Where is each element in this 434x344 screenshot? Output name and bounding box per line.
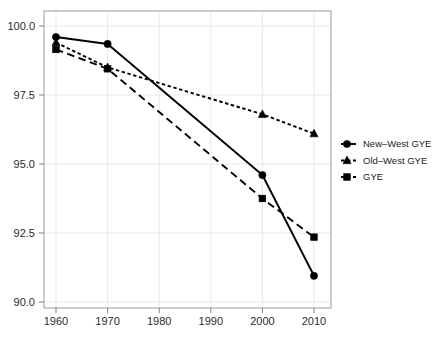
data-point-square <box>344 174 351 181</box>
legend-label-3: GYE <box>363 171 383 182</box>
y-tick-label-100: 100.0 <box>7 20 35 32</box>
data-point-circle <box>310 272 317 279</box>
y-tick-label-92-5: 92.5 <box>14 227 35 239</box>
data-point-square <box>259 195 266 202</box>
chart-container: 90.0 92.5 95.0 97.5 100.0 1960 1970 1980… <box>0 0 434 344</box>
legend-label-2: Old–West GYE <box>363 155 427 166</box>
data-point-square <box>104 65 111 72</box>
y-tick-label-90: 90.0 <box>14 296 35 308</box>
x-tick-label-1990: 1990 <box>199 315 223 327</box>
x-tick-label-1960: 1960 <box>44 315 68 327</box>
data-point-square <box>311 234 318 241</box>
line-chart: 90.0 92.5 95.0 97.5 100.0 1960 1970 1980… <box>0 0 434 344</box>
y-tick-label-97-5: 97.5 <box>14 89 35 101</box>
data-point-square <box>53 46 60 53</box>
x-tick-label-1970: 1970 <box>95 315 119 327</box>
data-point-circle <box>259 171 266 178</box>
x-tick-label-2010: 2010 <box>302 315 326 327</box>
x-tick-label-1980: 1980 <box>147 315 171 327</box>
legend-label-1: New–West GYE <box>363 138 431 149</box>
data-point-circle <box>104 40 111 47</box>
data-point-circle <box>343 140 350 147</box>
y-tick-label-95: 95.0 <box>14 158 35 170</box>
x-tick-label-2000: 2000 <box>250 315 274 327</box>
